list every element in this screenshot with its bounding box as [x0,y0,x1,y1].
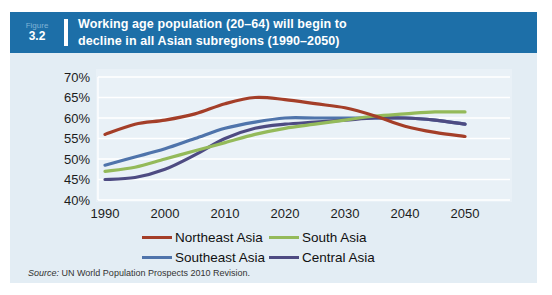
legend-label: South Asia [302,230,367,245]
y-tick-label-65: 65% [64,90,90,105]
x-tick-label-2000: 2000 [151,206,180,221]
figure-header: Figure 3.2 Working age population (20–64… [10,12,537,53]
legend-row: Southeast AsiaCentral Asia [142,250,375,265]
figure-title-line2: decline in all Asian subregions (1990–20… [78,33,347,50]
legend-item-south-asia: South Asia [269,230,367,245]
legend-label: Northeast Asia [175,230,263,245]
y-tick-label-70: 70% [64,70,90,85]
y-tick-label-40: 40% [64,193,90,208]
line-chart: 40%45%50%55%60%65%70%1990200020102020203… [10,53,537,228]
x-tick-label-2030: 2030 [331,206,360,221]
source-text: UN World Population Prospects 2010 Revis… [59,268,250,278]
x-tick-label-2050: 2050 [451,206,480,221]
legend-swatch-icon [142,256,172,259]
y-tick-label-50: 50% [64,152,90,167]
y-tick-label-55: 55% [64,131,90,146]
legend-item-southeast-asia: Southeast Asia [142,250,269,265]
x-tick-label-2010: 2010 [211,206,240,221]
source-note: Source: UN World Population Prospects 20… [28,268,250,278]
legend-swatch-icon [269,236,299,239]
x-tick-label-2020: 2020 [271,206,300,221]
figure-number: 3.2 [10,30,64,43]
source-label: Source: [28,268,59,278]
figure-title-line1: Working age population (20–64) will begi… [78,16,347,33]
x-tick-label-1990: 1990 [91,206,120,221]
legend-label: Central Asia [302,250,375,265]
x-tick-label-2040: 2040 [391,206,420,221]
chart-legend: Northeast AsiaSouth AsiaSoutheast AsiaCe… [142,230,375,265]
legend-swatch-icon [142,236,172,239]
legend-item-central-asia: Central Asia [269,250,375,265]
y-tick-label-45: 45% [64,172,90,187]
figure-title: Working age population (20–64) will begi… [78,16,347,50]
legend-label: Southeast Asia [175,250,265,265]
legend-row: Northeast AsiaSouth Asia [142,230,375,245]
figure-panel: Figure 3.2 Working age population (20–64… [10,12,537,283]
legend-swatch-icon [269,256,299,259]
legend-item-northeast-asia: Northeast Asia [142,230,269,245]
header-divider [64,19,68,46]
y-tick-label-60: 60% [64,111,90,126]
figure-id-block: Figure 3.2 [10,22,64,44]
